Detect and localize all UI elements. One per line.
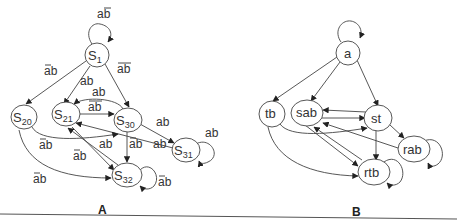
state-rab[interactable]: rab xyxy=(398,136,430,162)
edge-label-s32-s21: ab xyxy=(99,137,113,151)
svg-text:a: a xyxy=(344,46,352,61)
bottom-divider xyxy=(0,214,457,219)
edge-sab-rtb xyxy=(305,125,358,166)
state-rtb[interactable]: rtb xyxy=(358,159,390,185)
state-tb[interactable]: tb xyxy=(259,101,285,127)
svg-text:ab: ab xyxy=(73,149,87,163)
edge-a-sab xyxy=(311,62,340,101)
edge-label-s1-s30: ab xyxy=(117,62,131,76)
state-s21[interactable]: S21 xyxy=(52,102,80,126)
edge-label-s20-s32: ab xyxy=(33,172,47,186)
edge-label-s1-self: ab xyxy=(97,7,111,21)
svg-text:ab: ab xyxy=(117,62,131,76)
svg-text:st: st xyxy=(371,111,382,126)
edge-s32-self xyxy=(140,167,157,189)
svg-text:ab: ab xyxy=(39,138,53,152)
svg-text:ab: ab xyxy=(129,137,143,151)
edge-label-s1-s20: ab xyxy=(44,64,58,78)
svg-text:sab: sab xyxy=(296,105,317,120)
edge-label-s31-self: ab xyxy=(205,126,219,140)
svg-text:ab: ab xyxy=(33,172,47,186)
svg-text:rtb: rtb xyxy=(364,165,379,180)
edge-label-s21-s30: ab xyxy=(88,100,102,114)
panel-a: S1 S20 S21 S30 S31 S32 ab ab xyxy=(11,7,219,217)
edge-tb-st xyxy=(280,124,367,134)
edge-label-s20-s30: ab xyxy=(39,138,53,152)
svg-text:ab: ab xyxy=(44,64,58,78)
edge-a-self xyxy=(338,21,361,42)
state-s30[interactable]: S30 xyxy=(114,108,142,132)
edge-label-s30-s21: ab xyxy=(92,85,106,99)
edge-label-s30-s31: ab xyxy=(156,115,170,129)
state-sab[interactable]: sab xyxy=(291,100,323,126)
edge-s1-self xyxy=(89,24,111,44)
edge-label-s21-s32: ab xyxy=(73,149,87,163)
edge-label-s30-s32: ab xyxy=(129,137,143,151)
state-st[interactable]: st xyxy=(364,105,392,131)
state-s31[interactable]: S31 xyxy=(172,138,200,162)
edge-label-s31-s21: ab xyxy=(153,137,167,151)
state-s20[interactable]: S20 xyxy=(11,105,37,129)
edge-tb-rtb xyxy=(268,127,358,176)
state-a[interactable]: a xyxy=(336,41,360,65)
edge-a-st xyxy=(357,60,378,106)
edge-st-sab xyxy=(323,110,366,112)
state-s1[interactable]: S1 xyxy=(85,43,109,67)
panel-label-b: B xyxy=(352,205,361,219)
state-s32[interactable]: S32 xyxy=(112,163,142,187)
panel-b: a tb sab st rab rtb B xyxy=(259,21,442,219)
svg-text:ab: ab xyxy=(97,7,111,21)
state-diagram-figure: S1 S20 S21 S30 S31 S32 ab ab xyxy=(0,0,457,220)
svg-text:rab: rab xyxy=(403,142,422,157)
edge-st-rab xyxy=(390,125,404,138)
svg-text:ab: ab xyxy=(88,100,102,114)
svg-text:tb: tb xyxy=(265,106,276,121)
edge-label-s32-self: ab xyxy=(158,175,172,189)
svg-text:ab: ab xyxy=(158,175,172,189)
